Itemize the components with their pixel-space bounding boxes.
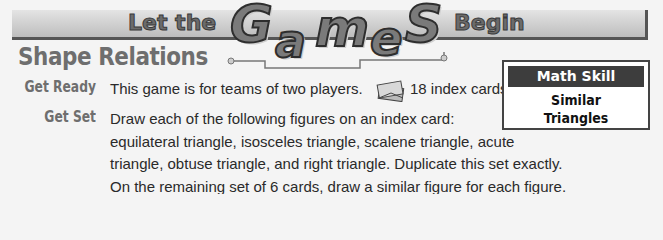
math-skill-value: Similar Triangles bbox=[511, 91, 641, 127]
get-ready-text: This game is for teams of two players. bbox=[110, 80, 363, 97]
materials-text: 18 index cards bbox=[410, 80, 508, 97]
get-ready-label: Get Ready bbox=[17, 78, 96, 96]
math-skill-header: Math Skill bbox=[508, 66, 644, 87]
get-set-label: Get Set bbox=[17, 108, 96, 126]
instruction-line: Draw each of the following figures on an… bbox=[110, 110, 566, 133]
instruction-line: triangle, obtuse triangle, and right tri… bbox=[110, 155, 566, 178]
skill-line: Triangles bbox=[511, 109, 641, 127]
instruction-line: On the remaining set of 6 cards, draw a … bbox=[110, 178, 566, 195]
skill-line: Similar bbox=[511, 91, 641, 109]
math-skill-box: Math Skill Similar Triangles bbox=[502, 60, 650, 130]
instruction-line: equilateral triangle, isosceles triangle… bbox=[110, 133, 566, 156]
index-cards-icon bbox=[375, 80, 405, 102]
page-title: Shape Relations bbox=[18, 42, 208, 71]
get-set-instructions: Draw each of the following figures on an… bbox=[110, 110, 566, 194]
